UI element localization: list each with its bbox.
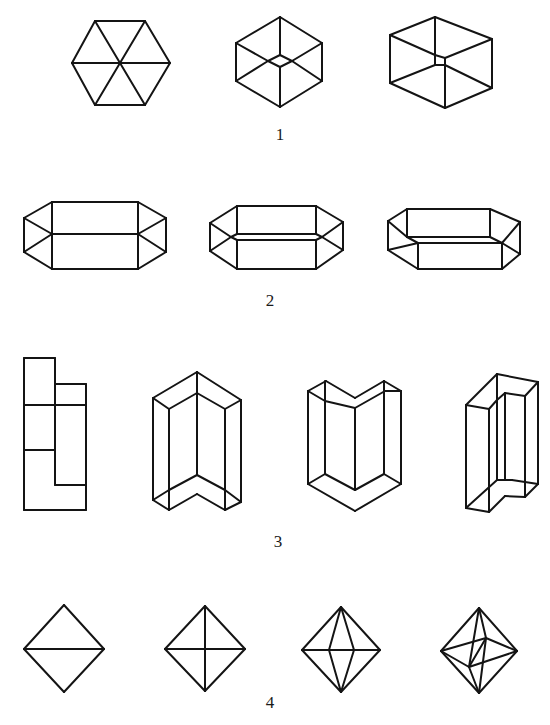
octahedron-top-view — [165, 606, 245, 691]
l-prism-view-c — [466, 374, 538, 512]
l-shape-plan-view — [24, 358, 86, 510]
l-prism-view-a — [153, 372, 241, 510]
figure-group-2 — [24, 202, 520, 269]
group-label-2: 2 — [266, 292, 275, 309]
diagram-canvas — [0, 0, 550, 725]
group-label-1: 1 — [276, 126, 285, 143]
figure-group-3 — [24, 358, 538, 512]
hexagonal-prism-edge-on — [24, 202, 166, 269]
group-label-4: 4 — [266, 694, 275, 711]
hexagonal-prism-slightly-rotated — [210, 206, 343, 269]
hexagonal-prism-further-rotated — [388, 209, 520, 269]
figure-group-4 — [24, 605, 517, 693]
l-prism-view-b — [308, 381, 401, 511]
octahedron-edge-on — [24, 605, 104, 692]
hexagon-divided-into-triangles — [72, 21, 170, 105]
octahedron-oblique — [441, 608, 517, 693]
cube-view-offset-center-face — [390, 17, 492, 108]
figure-group-1 — [72, 17, 492, 108]
group-label-3: 3 — [274, 533, 283, 550]
octahedron-slightly-rotated — [302, 607, 380, 692]
cube-view-small-center-face — [236, 17, 322, 107]
